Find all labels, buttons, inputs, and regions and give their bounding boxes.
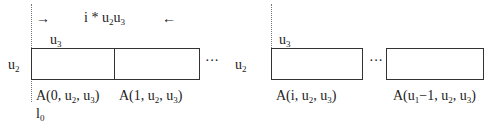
right-width-label: u3 — [279, 33, 291, 47]
arrow-right-icon: → — [36, 12, 50, 26]
block-1-label: A(1, u2, u3) — [119, 89, 182, 103]
block-0 — [31, 48, 116, 80]
block-last-label: A(u1−1, u2, u3) — [393, 89, 476, 103]
block-0-label: A(0, u2, u3) — [36, 89, 99, 103]
origin-label: l0 — [36, 107, 44, 121]
right-offset-guide — [271, 4, 272, 48]
right-height-label: u2 — [235, 58, 247, 72]
offset-formula: i * u2u3 — [84, 11, 125, 25]
block-last — [386, 48, 484, 80]
left-height-label: u2 — [8, 58, 20, 72]
block-1 — [114, 48, 200, 80]
block-i-label: A(i, u2, u3) — [276, 89, 336, 103]
right-ellipsis: ··· — [369, 54, 383, 68]
left-width-label: u3 — [50, 33, 62, 47]
block-i — [271, 48, 363, 80]
left-ellipsis: ··· — [205, 54, 219, 68]
arrow-left-icon: ← — [162, 12, 176, 26]
